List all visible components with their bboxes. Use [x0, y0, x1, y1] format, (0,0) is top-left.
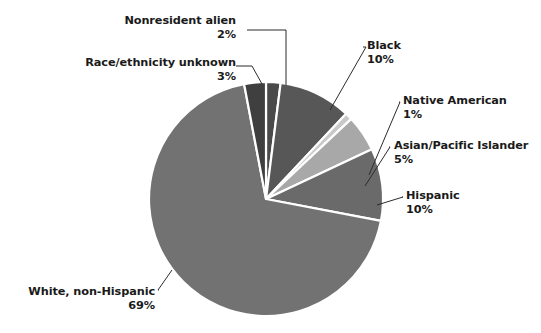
leader-line	[158, 270, 172, 290]
pie-label-race-ethnicity-unknown: Race/ethnicity unknown 3%	[8, 56, 236, 83]
pie-label-percent: 5%	[394, 153, 528, 167]
pie-label-white-non-hispanic: White, non-Hispanic 69%	[27, 285, 155, 312]
pie-label-name: White, non-Hispanic	[27, 285, 155, 299]
leader-line	[247, 30, 286, 85]
pie-label-percent: 69%	[27, 299, 155, 313]
pie-label-black: Black 10%	[367, 39, 401, 66]
pie-label-asian-pacific-islander: Asian/Pacific Islander 5%	[394, 139, 528, 166]
pie-chart-figure: Nonresident alien 2% Black 10% Native Am…	[0, 0, 541, 333]
leader-line	[330, 47, 366, 110]
pie-label-name: Race/ethnicity unknown	[8, 56, 236, 70]
pie-label-name: Native American	[403, 94, 507, 108]
pie-label-percent: 1%	[403, 108, 507, 122]
pie-label-percent: 2%	[36, 28, 236, 42]
pie-label-name: Hispanic	[406, 189, 460, 203]
pie-label-name: Nonresident alien	[36, 14, 236, 28]
pie-label-hispanic: Hispanic 10%	[406, 189, 460, 216]
pie-label-percent: 10%	[406, 203, 460, 217]
pie-label-name: Black	[367, 39, 401, 53]
pie-label-percent: 10%	[367, 53, 401, 67]
pie-label-name: Asian/Pacific Islander	[394, 139, 528, 153]
pie-chart-canvas	[0, 0, 541, 333]
pie-label-nonresident-alien: Nonresident alien 2%	[36, 14, 236, 41]
pie-label-percent: 3%	[8, 70, 236, 84]
pie-slices-group	[149, 82, 383, 316]
pie-label-native-american: Native American 1%	[403, 94, 507, 121]
